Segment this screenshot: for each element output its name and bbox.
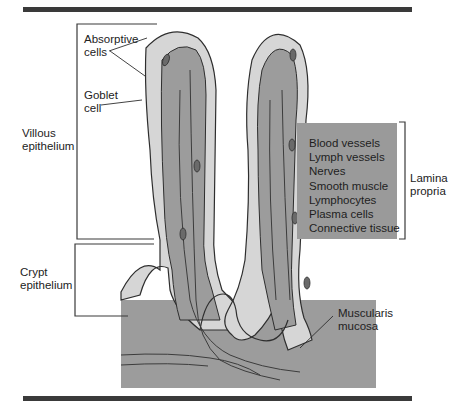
label-line: mucosa (338, 320, 393, 333)
label-crypt-epithelium: Crypt epithelium (20, 266, 72, 292)
label-line: Villous (22, 127, 74, 140)
label-line: epithelium (20, 279, 72, 292)
label-line: Crypt (20, 266, 72, 279)
label-line: propria (410, 185, 448, 198)
label-goblet-cell: Goblet cell (84, 89, 118, 115)
label-line: Muscularis (338, 307, 393, 320)
label-line: Lamina (410, 172, 448, 185)
content-item: Lymphocytes (309, 193, 400, 207)
label-muscularis-mucosa: Muscularis mucosa (338, 307, 393, 333)
content-item: Smooth muscle (309, 179, 400, 193)
label-line: Absorptive (84, 33, 138, 46)
lamina-bracket (399, 122, 405, 239)
content-item: Plasma cells (309, 207, 400, 221)
lamina-propria-contents: Blood vessels Lymph vessels Nerves Smoot… (309, 136, 400, 235)
content-item: Lymph vessels (309, 150, 400, 164)
label-absorptive-cells: Absorptive cells (84, 33, 138, 59)
label-line: epithelium (22, 140, 74, 153)
label-line: cells (84, 46, 138, 59)
content-item: Nerves (309, 164, 400, 178)
label-line: cell (84, 102, 118, 115)
label-villous-epithelium: Villous epithelium (22, 127, 74, 153)
content-item: Blood vessels (309, 136, 400, 150)
bottom-rule (23, 396, 412, 401)
content-item: Connective tissue (309, 221, 400, 235)
label-lamina-propria: Lamina propria (410, 172, 448, 198)
label-line: Goblet (84, 89, 118, 102)
